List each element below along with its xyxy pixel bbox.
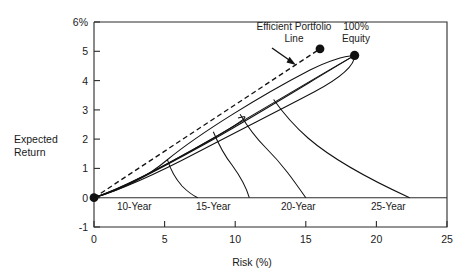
efficient-portfolio-line: [94, 49, 320, 198]
y-tick-label: 1: [82, 162, 88, 174]
x-tick-label: 0: [91, 233, 97, 245]
efficient-line-label-line1: Efficient Portfolio: [257, 21, 332, 32]
y-tick-label: 6%: [73, 16, 88, 28]
equity-label-line2: Equity: [342, 33, 370, 44]
era-labels: 10-Year 15-Year 20-Year 25-Year: [117, 201, 406, 212]
equity-point-marker: [350, 51, 359, 60]
y-tick-label: -1: [79, 221, 88, 233]
frontier-curve-15-year: [94, 55, 355, 197]
y-axis-title-line2: Return: [14, 146, 46, 158]
efficient-line-endpoint-marker: [316, 44, 325, 53]
era-label-20-year: 20-Year: [281, 201, 316, 212]
frontier-curve-10-year: [94, 55, 355, 197]
y-tick-label: 0: [82, 192, 88, 204]
y-tick-labels: 6% 5 4 3 2 1 0 -1: [73, 16, 88, 233]
equity-label-line1: 100%: [343, 21, 369, 32]
era-label-15-year: 15-Year: [196, 201, 231, 212]
plot-frame: [94, 22, 447, 227]
x-tick-label: 25: [441, 233, 453, 245]
x-tick-label: 20: [371, 233, 383, 245]
efficient-portfolio-line-annotation: Efficient Portfolio Line: [257, 21, 332, 65]
frontier-curve-20-year: [94, 55, 355, 197]
era-label-10-year: 10-Year: [117, 201, 152, 212]
era-label-25-year: 25-Year: [371, 201, 406, 212]
x-tick-label: 5: [162, 233, 168, 245]
x-axis-title: Risk (%): [232, 256, 272, 268]
data-markers: [90, 44, 360, 202]
equity-annotation: 100% Equity: [342, 21, 370, 44]
y-tick-label: 5: [82, 45, 88, 57]
y-tick-label: 2: [82, 133, 88, 145]
efficient-frontier-chart: 6% 5 4 3 2 1 0 -1 0 5 10 15 20 25 Expect…: [0, 0, 474, 279]
y-axis-title-line1: Expected: [14, 133, 58, 145]
x-tick-label: 15: [300, 233, 312, 245]
annotation-arrow-head-icon: [287, 57, 297, 65]
efficient-line-label-line2: Line: [285, 33, 304, 44]
chart-figure: 6% 5 4 3 2 1 0 -1 0 5 10 15 20 25 Expect…: [0, 0, 474, 279]
origin-marker: [90, 193, 99, 202]
y-tick-label: 4: [82, 75, 88, 87]
x-tick-label: 10: [229, 233, 241, 245]
x-tick-labels: 0 5 10 15 20 25: [91, 233, 453, 245]
frontier-curve-25-year: [94, 55, 410, 197]
y-tick-label: 3: [82, 104, 88, 116]
x-axis-ticks: [94, 221, 447, 227]
